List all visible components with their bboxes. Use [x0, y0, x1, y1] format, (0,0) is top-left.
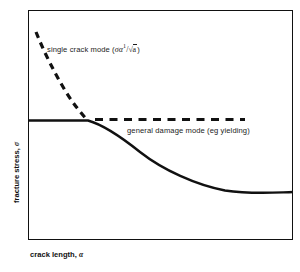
single-crack-mode-label: single crack mode (σα1/√a) — [47, 43, 140, 54]
x-axis-label-text: crack length, — [30, 250, 79, 259]
y-axis-label-text: fracture stress, — [12, 146, 21, 203]
x-axis-label: crack length, α — [30, 250, 83, 259]
general-damage-mode-label: general damage mode (eg yielding) — [127, 127, 250, 135]
x-axis-label-symbol: α — [79, 250, 83, 259]
y-axis-label: fracture stress, σ — [12, 130, 21, 216]
plot-curves — [0, 0, 300, 272]
single-crack-mode-text: single crack mode ( — [47, 45, 115, 54]
single-crack-formula: σα1/√a — [115, 45, 137, 54]
fracture-stress-figure: single crack mode (σα1/√a) general damag… — [0, 0, 300, 272]
y-axis-label-symbol: σ — [12, 142, 21, 146]
single-crack-close-paren: ) — [137, 45, 140, 54]
